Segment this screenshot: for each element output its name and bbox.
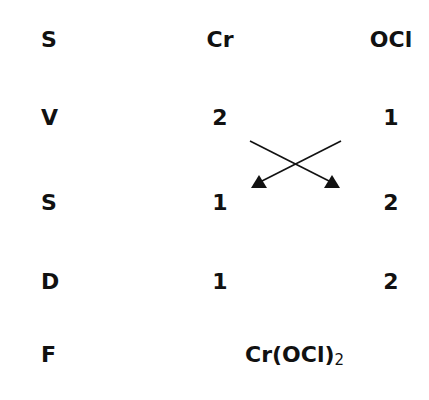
cation-valency: 2 — [203, 107, 237, 129]
final-formula: Cr(OCl)2 — [245, 344, 344, 368]
formula-main: Cr(OCl) — [245, 342, 335, 367]
header-label-symbol: S — [41, 29, 57, 51]
anion-divided: 2 — [366, 271, 416, 293]
cation-swapped: 1 — [203, 192, 237, 214]
row-label-divide: D — [41, 271, 59, 293]
anion-swapped: 2 — [366, 192, 416, 214]
row-label-formula: F — [41, 344, 56, 366]
header-anion: OCl — [366, 29, 416, 51]
header-cation: Cr — [203, 29, 237, 51]
row-label-valency: V — [41, 107, 58, 129]
arrow-cation-to-anion-icon — [250, 141, 340, 188]
row-label-swap: S — [41, 192, 57, 214]
formula-subscript: 2 — [335, 351, 345, 369]
arrow-anion-to-cation-icon — [251, 141, 341, 188]
anion-valency: 1 — [366, 107, 416, 129]
cation-divided: 1 — [203, 271, 237, 293]
